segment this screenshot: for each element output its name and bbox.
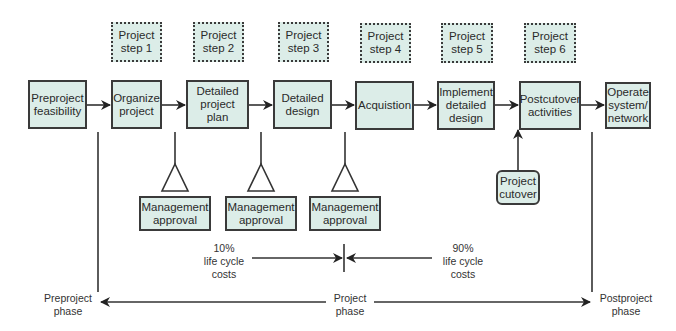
- management-approval-3: Management approval: [309, 196, 381, 231]
- flow-box-organize-project: Organize project: [111, 80, 162, 129]
- approval-triangle-icon: [332, 164, 358, 191]
- flow-box-implement-detailed-design: Implement detailed design: [437, 81, 495, 130]
- flow-box-postcutover-activities: Postcutover activities: [519, 81, 581, 130]
- flow-box-acquistion: Acquistion: [355, 81, 414, 130]
- project-step-4: Project step 4: [360, 23, 411, 63]
- cost-label-10-percent: 10% life cycle costs: [196, 242, 252, 281]
- flow-box-detailed-design: Detailed design: [273, 80, 332, 129]
- project-step-2: Project step 2: [193, 22, 244, 62]
- project-cutover-box: Project cutover: [496, 170, 540, 205]
- cost-label-90-percent: 90% life cycle costs: [434, 242, 492, 281]
- phase-label-project: Project phase: [326, 292, 374, 318]
- phase-label-preproject: Preproject phase: [40, 292, 96, 318]
- management-approval-1: Management approval: [139, 196, 211, 231]
- phase-label-postproject: Postproject phase: [594, 292, 658, 318]
- flow-box-preproject-feasibility: Preproject feasibility: [28, 80, 87, 129]
- project-step-1: Project step 1: [111, 22, 162, 62]
- approval-triangle-icon: [248, 164, 274, 191]
- project-step-5: Project step 5: [441, 23, 493, 63]
- approval-triangle-icon: [162, 164, 188, 191]
- management-approval-2: Management approval: [225, 196, 297, 231]
- project-step-3: Project step 3: [278, 22, 329, 62]
- flow-box-detailed-project-plan: Detailed project plan: [186, 80, 249, 129]
- project-step-6: Project step 6: [524, 23, 576, 63]
- flow-box-operate-system-network: Operate system/ network: [605, 82, 651, 129]
